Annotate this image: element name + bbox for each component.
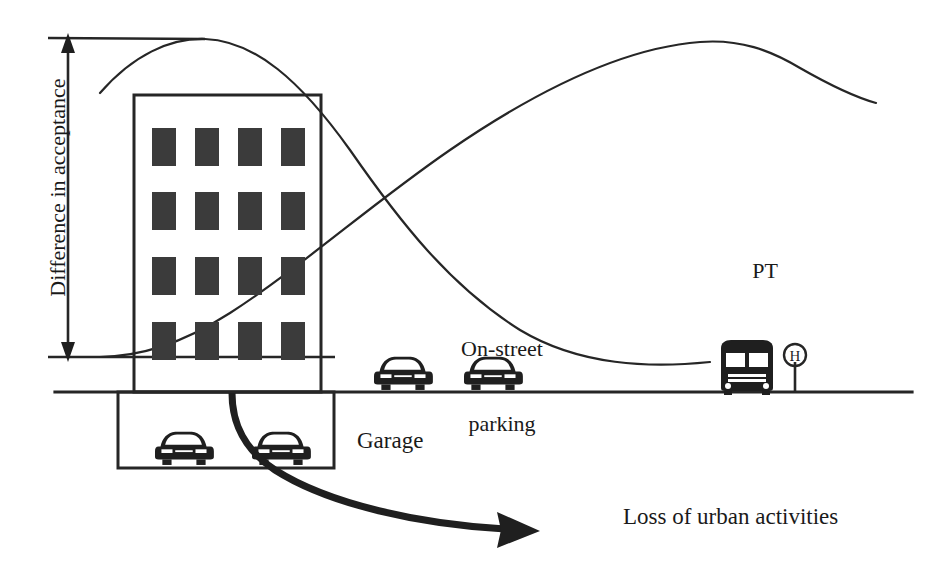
axis-label-difference-in-acceptance: Difference in acceptance [45,38,70,338]
arrow-head-down [61,342,75,362]
bus-icon [721,340,773,395]
bus-stop-sign-icon: H [784,344,806,392]
building-windows [152,128,305,360]
label-on-street-parking: On-street parking [432,285,572,487]
arrow-head-right [497,512,540,548]
label-loss-of-urban-activities: Loss of urban activities [623,504,838,530]
axis-top-guide-line [48,38,205,39]
label-public-transport: PT [735,258,795,283]
label-garage: Garage [357,428,423,454]
car-icon-garage-1 [155,432,214,465]
diagram-figure: H Difference in acceptance On-street par… [0,0,935,572]
label-on-street-parking-line1: On-street [432,336,572,361]
car-icon-street-1 [374,357,433,390]
curve-on-street-parking [100,39,710,365]
bus-stop-sign-letter: H [790,348,801,364]
label-on-street-parking-line2: parking [432,411,572,436]
